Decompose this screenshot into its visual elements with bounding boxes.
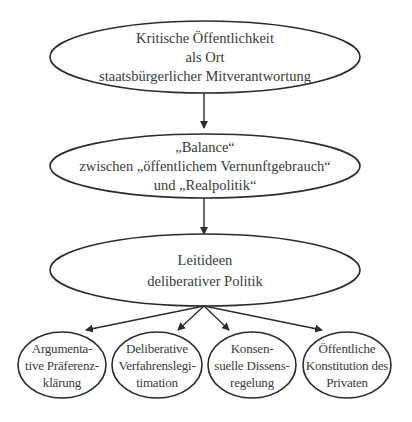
leaf-2-line-2: Verfahrenslegi- — [118, 357, 195, 374]
leaf-4-label: Öffentliche Konstitution des Privaten — [303, 333, 391, 398]
edge-lower-to-leaf-2 — [178, 306, 204, 330]
middle-node-label: „Balance“ zwischen „öffentlichem Vernunf… — [50, 134, 360, 198]
top-node-line-1: Kritische Öffentlichkeit — [136, 29, 274, 48]
top-node-line-3: staatsbürgerlicher Mitverantwortung — [99, 67, 311, 86]
leaf-3-label: Konsen- suelle Dissens- regelung — [208, 333, 296, 398]
edge-lower-to-leaf-1 — [86, 306, 204, 330]
leaf-2-line-3: timation — [136, 374, 178, 391]
middle-node-line-3: und „Realpolitik“ — [154, 176, 257, 195]
leaf-1-line-3: klärung — [43, 374, 81, 391]
leaf-1-line-1: Argumenta- — [32, 340, 93, 357]
leaf-4-line-3: Privaten — [326, 374, 368, 391]
lower-node-label: Leitideen deliberativer Politik — [50, 236, 360, 306]
lower-node-line-1: Leitideen — [178, 251, 233, 270]
leaf-1-label: Argumenta- tive Präferenz- klärung — [18, 333, 106, 398]
lower-node-line-2: deliberativer Politik — [147, 272, 263, 291]
leaf-3-line-3: regelung — [230, 374, 274, 391]
edge-lower-to-leaf-3 — [204, 306, 229, 330]
middle-node-line-2: zwischen „öffentlichem Vernunftgebrauch“ — [79, 157, 331, 176]
top-node-label: Kritische Öffentlichkeit als Ort staatsb… — [50, 22, 360, 92]
middle-node-line-1: „Balance“ — [175, 138, 235, 157]
edge-lower-to-leaf-4 — [204, 306, 322, 330]
leaf-1-line-2: tive Präferenz- — [25, 357, 99, 374]
leaf-4-line-1: Öffentliche — [319, 340, 376, 357]
diagram-canvas: Kritische Öffentlichkeit als Ort staatsb… — [0, 0, 412, 422]
leaf-2-line-1: Deliberative — [126, 340, 188, 357]
leaf-3-line-1: Konsen- — [231, 340, 274, 357]
leaf-3-line-2: suelle Dissens- — [214, 357, 289, 374]
leaf-4-line-2: Konstitution des — [306, 357, 388, 374]
top-node-line-2: als Ort — [185, 48, 224, 67]
leaf-2-label: Deliberative Verfahrenslegi- timation — [112, 333, 202, 398]
